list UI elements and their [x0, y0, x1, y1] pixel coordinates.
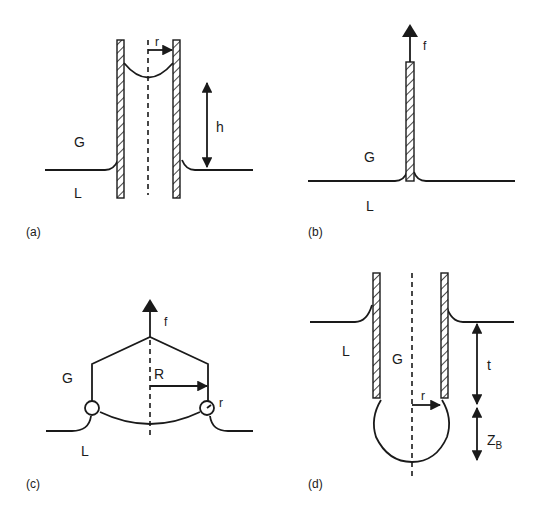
liquid-label: L	[81, 443, 89, 459]
tube-wall-left	[117, 40, 124, 198]
wire-radius-label: r	[219, 396, 223, 410]
liquid-label: L	[366, 198, 374, 214]
liquid-surface-left	[46, 416, 91, 431]
liquid-label: L	[342, 343, 350, 359]
depth-label: t	[487, 357, 491, 373]
radius-label: r	[155, 35, 159, 49]
liquid-label: L	[74, 185, 82, 201]
liquid-surface-right	[446, 305, 514, 322]
radius-label: r	[421, 389, 425, 403]
wire-radius-mark	[207, 405, 211, 408]
force-arrowhead-icon	[142, 299, 158, 312]
liquid-surface-right	[182, 160, 253, 170]
gas-label: G	[364, 149, 375, 165]
ring-radius-label: R	[154, 366, 164, 382]
panel-caption: (a)	[26, 225, 41, 239]
figure-canvas: r h G L (a) f G L (b) f	[0, 0, 540, 521]
bubble-height-label: ZB	[487, 432, 503, 451]
height-label: h	[216, 119, 224, 135]
gas-label: G	[62, 370, 73, 386]
force-label: f	[423, 39, 427, 53]
panel-d: r t ZB L G (d)	[308, 273, 514, 491]
tube-wall-right	[173, 40, 180, 198]
liquid-surface-left	[45, 160, 118, 170]
panel-a: r h G L (a)	[26, 35, 253, 239]
force-arrowhead-icon	[402, 24, 418, 37]
tube-wall-right	[441, 273, 448, 398]
wilhelmy-plate	[406, 62, 414, 181]
panel-caption: (d)	[308, 477, 323, 491]
tube-wall-left	[373, 273, 380, 398]
ring-wire-left	[85, 401, 99, 415]
gas-label: G	[392, 351, 403, 367]
panel-caption: (c)	[26, 477, 40, 491]
liquid-surface-right	[210, 416, 253, 431]
liquid-surface	[308, 172, 407, 181]
liquid-surface	[414, 172, 515, 181]
panel-caption: (b)	[308, 225, 323, 239]
panel-c: f R r G L (c)	[26, 299, 253, 491]
panel-b: f G L (b)	[308, 24, 515, 239]
liquid-surface-left	[310, 305, 372, 322]
force-label: f	[164, 315, 168, 329]
gas-label: G	[74, 134, 85, 150]
